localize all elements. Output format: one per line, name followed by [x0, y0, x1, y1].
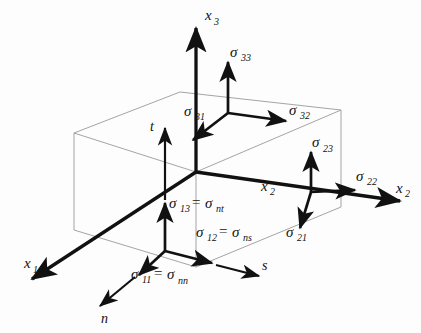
label-sigma-13-sub: 13 — [180, 203, 190, 214]
equation-sigma-12: σ 12 = σ ns — [196, 223, 252, 243]
label-sigma-23: σ — [312, 134, 320, 150]
label-vector-n: n — [101, 311, 108, 326]
axis-x3-label: x — [204, 7, 212, 23]
arrow-sigma-21 — [300, 192, 311, 228]
axis-x1-label: x — [23, 255, 31, 271]
label-sigma-ns-sub: ns — [243, 232, 252, 243]
label-equals-12: = — [219, 223, 227, 239]
label-sigma-12: σ — [196, 224, 204, 240]
cube-edge-bottom-right — [196, 207, 341, 267]
label-sigma-33: σ — [230, 44, 238, 60]
arrow-sigma-12 — [165, 251, 212, 263]
axis-x1-sublabel: 1 — [33, 264, 38, 275]
label-sigma-32-sub: 32 — [299, 110, 310, 121]
top-face-stress-triad — [193, 62, 286, 140]
label-sigma-33-sub: 33 — [240, 52, 251, 63]
cube-edge-bottom-left — [74, 230, 196, 267]
equation-sigma-11: σ 11 = σ nn — [131, 265, 188, 286]
label-sigma-21-sub: 21 — [297, 232, 307, 243]
label-sigma-12-sub: 12 — [207, 232, 217, 243]
label-equals-13: = — [192, 194, 200, 210]
arrow-vector-n — [100, 277, 135, 306]
label-sigma-32: σ — [289, 102, 297, 118]
axis-x3-sublabel: 3 — [213, 16, 219, 27]
label-sigma-nt-sub: nt — [216, 203, 224, 214]
label-vector-s: s — [262, 258, 268, 273]
label-sigma-21: σ — [286, 224, 294, 240]
label-sigma-nn-sub: nn — [178, 275, 188, 286]
label-sigma-nt: σ — [205, 195, 213, 211]
label-sigma-23-sub: 23 — [323, 143, 333, 154]
label-equals-11: = — [154, 265, 162, 281]
axis-x2-label-outer: x — [395, 180, 403, 196]
axis-x2-label: x — [260, 178, 268, 194]
arrow-sigma-32 — [228, 113, 286, 121]
label-sigma-nn: σ — [167, 266, 175, 282]
right-face-stress-triad — [300, 152, 355, 228]
label-sigma-22-sub: 22 — [367, 176, 377, 187]
stress-element-diagram: x 2 x 2 x 3 x 1 σ 33 σ 32 σ 31 σ 23 σ 22… — [0, 0, 421, 333]
cube-top-face — [74, 92, 341, 172]
label-sigma-31-sub: 31 — [194, 111, 205, 122]
label-vector-t: t — [150, 119, 155, 134]
axis-x1-line — [32, 172, 196, 279]
label-sigma-31: σ — [184, 103, 192, 119]
label-sigma-13: σ — [169, 195, 177, 211]
arrow-vector-s — [216, 265, 259, 276]
axis-x2-sublabel-outer: 2 — [405, 188, 410, 199]
figure-canvas: x 2 x 2 x 3 x 1 σ 33 σ 32 σ 31 σ 23 σ 22… — [0, 0, 421, 333]
label-sigma-ns: σ — [232, 224, 240, 240]
equation-sigma-13: σ 13 = σ nt — [169, 194, 224, 214]
label-sigma-11-sub: 11 — [142, 274, 151, 285]
axis-x2-sublabel: 2 — [270, 186, 275, 197]
label-sigma-22: σ — [356, 168, 364, 184]
